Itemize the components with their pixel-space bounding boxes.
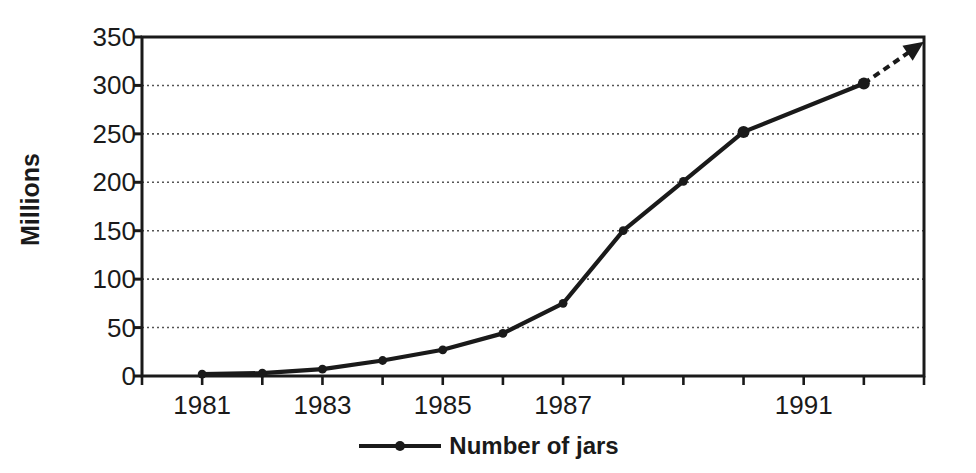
data-series-number-of-jars — [198, 77, 870, 378]
chart-figure: Millions 050100150200250300350 198119831… — [0, 0, 976, 473]
legend-marker-icon — [357, 438, 443, 454]
gridlines — [142, 85, 924, 327]
plot-canvas — [0, 0, 976, 473]
plot-frame — [142, 37, 924, 376]
legend-label-number-of-jars: Number of jars — [449, 432, 618, 460]
trend-arrow-annotation — [864, 42, 924, 84]
chart-legend: Number of jars — [0, 432, 976, 460]
